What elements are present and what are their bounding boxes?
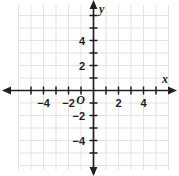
- plot-background: [0, 0, 179, 176]
- y-tick-label-2: 2: [79, 60, 85, 72]
- x-tick-label-neg2: −2: [62, 97, 75, 109]
- origin-label: O: [76, 93, 85, 107]
- x-tick-label-neg4: −4: [37, 97, 50, 109]
- x-tick-label-4: 4: [140, 97, 147, 109]
- x-axis-label: x: [161, 72, 168, 86]
- coordinate-plane: −4 −2 2 4 4 2 −2 −4 O x y: [0, 0, 179, 176]
- y-tick-label-neg2: −2: [72, 110, 85, 122]
- y-tick-label-neg4: −4: [72, 135, 85, 147]
- coordinate-grid-svg: −4 −2 2 4 4 2 −2 −4 O x y: [0, 0, 179, 176]
- y-tick-label-4: 4: [79, 35, 86, 47]
- y-axis-label: y: [97, 2, 105, 16]
- x-tick-label-2: 2: [115, 97, 121, 109]
